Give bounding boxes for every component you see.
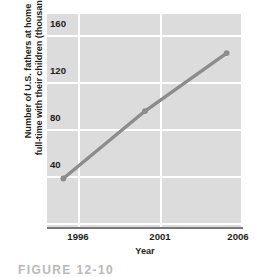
figure-caption: FIGURE 12-10 — [18, 263, 114, 277]
y-tick-label-40: 40 — [50, 159, 76, 170]
x-axis-line — [47, 227, 243, 229]
y-tick-label-160: 160 — [50, 18, 76, 29]
x-tick-label-2006: 2006 — [227, 231, 248, 242]
y-tick-label-120: 120 — [50, 65, 76, 76]
series-polyline — [63, 53, 226, 178]
data-point-1996 — [60, 176, 66, 182]
y-axis-title-line-2: full-time with their children (thousands… — [34, 0, 45, 155]
data-point-2001 — [142, 108, 148, 114]
data-series-line — [47, 14, 243, 227]
x-axis-title: Year — [47, 246, 243, 256]
plot-area — [47, 14, 243, 227]
y-axis-title-line-1: Number of U.S. fathers at home — [23, 4, 34, 138]
y-tick-label-80: 80 — [50, 112, 76, 123]
x-tick-label-1996: 1996 — [67, 231, 88, 242]
y-axis-title: Number of U.S. fathers at home full-time… — [18, 0, 50, 171]
data-point-2006 — [224, 50, 230, 56]
x-tick-label-2001: 2001 — [149, 231, 170, 242]
